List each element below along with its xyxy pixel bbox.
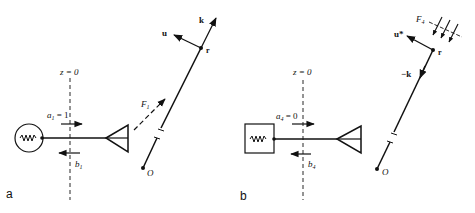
position-vector [143,138,157,168]
incident-label: a1 = 1 [47,110,69,121]
matched-load-icon [245,124,276,153]
origin-point [375,167,379,171]
panel-a: z = 0 a1 = 1 b1 F1 O r k u a [6,15,216,201]
position-vector [377,142,390,169]
field-label: F1 [140,99,150,110]
field-label: F4 [415,14,425,25]
incoming-plane-wave [429,17,462,42]
panel-label-b: b [240,189,247,203]
antenna-scattering-diagram: z = 0 a1 = 1 b1 F1 O r k u a [0,0,475,213]
u-conjugate-label: u* [394,29,404,39]
radiated-field-arrow [134,99,165,130]
origin-label: O [382,167,389,177]
k-vector-label: k [199,15,204,25]
panel-b: z = 0 a4 = 0 b4 O r −k u* F4 b [240,14,462,203]
panel-label-a: a [6,187,13,201]
minus-k-label: −k [401,69,411,79]
incident-label: a4 = 0 [276,111,298,122]
point-r-label: r [438,48,442,57]
u-conjugate-vector-arrow [407,36,433,50]
point-r-label: r [206,46,210,55]
u-vector-label: u [162,28,167,38]
origin-point [141,166,145,170]
plane-label: z = 0 [292,67,312,77]
generator-icon [15,124,44,152]
minus-k-vector-arrow [420,66,425,78]
reflected-label: b4 [308,159,316,170]
origin-label: O [147,168,154,178]
u-vector-arrow [174,35,201,48]
reflected-label: b1 [75,159,83,170]
plane-label: z = 0 [59,67,79,77]
